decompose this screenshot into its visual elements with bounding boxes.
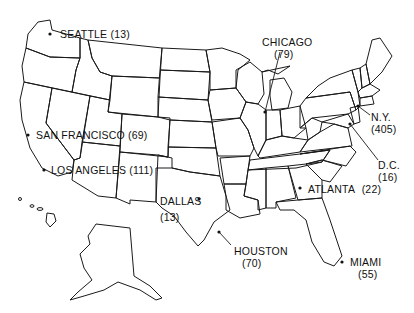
city-count: (55)	[358, 268, 381, 280]
city-label-los-angeles: LOS ANGELES (111)	[51, 164, 153, 176]
city-label-dallas: DALLAS (13)	[160, 195, 201, 223]
city-count: (111)	[129, 164, 153, 176]
new-york-leader-line	[358, 106, 370, 115]
city-label-washington-dc: D.C. (16)	[378, 159, 400, 183]
chicago-leader-line	[265, 52, 280, 112]
city-name: SAN FRANCISCO	[36, 129, 125, 141]
city-name: N.Y.	[371, 111, 391, 123]
los-angeles-marker	[42, 168, 45, 171]
city-label-new-york: N.Y. (405)	[371, 111, 397, 135]
city-label-seattle: SEATTLE (13)	[60, 28, 130, 40]
state-boundaries	[20, 20, 392, 266]
city-name: HOUSTON	[234, 245, 288, 257]
hawaii-outline	[19, 198, 57, 228]
city-name: CHICAGO	[262, 36, 312, 48]
seattle-marker	[48, 32, 51, 35]
city-name: D.C.	[378, 159, 400, 171]
alaska-outline	[70, 224, 162, 300]
city-name: LOS ANGELES	[51, 164, 126, 176]
city-name: MIAMI	[350, 256, 381, 268]
city-label-atlanta: ATLANTA (22)	[308, 183, 381, 195]
city-count: (13)	[160, 211, 201, 223]
city-count: (69)	[128, 129, 147, 141]
city-count: (16)	[378, 171, 400, 183]
city-label-san-francisco: SAN FRANCISCO (69)	[36, 129, 148, 141]
city-count: (79)	[274, 48, 312, 60]
city-label-miami: MIAMI (55)	[350, 256, 381, 280]
city-label-chicago: CHICAGO (79)	[262, 36, 312, 60]
city-name: DALLAS	[160, 195, 201, 207]
city-count: (13)	[110, 28, 129, 40]
houston-leader-line	[219, 232, 231, 245]
atlanta-marker	[298, 186, 301, 189]
city-label-houston: HOUSTON (70)	[234, 245, 288, 269]
san-francisco-marker	[26, 133, 29, 136]
city-count: (22)	[362, 183, 381, 195]
miami-marker	[340, 260, 343, 263]
city-name: ATLANTA	[308, 183, 355, 195]
city-count: (405)	[371, 123, 397, 135]
city-name: SEATTLE	[60, 28, 107, 40]
city-count: (70)	[242, 257, 288, 269]
